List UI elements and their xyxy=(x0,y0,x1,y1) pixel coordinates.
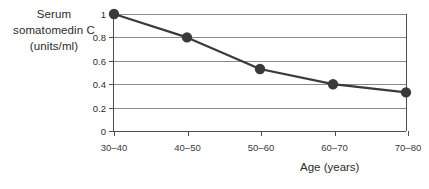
y-axis-tick-label: 1 xyxy=(101,9,106,20)
y-axis-title: Serum somatomedin C (units/ml) xyxy=(2,6,106,54)
data-point-marker xyxy=(255,64,265,74)
x-axis-tick xyxy=(335,131,336,136)
x-axis-tick xyxy=(114,131,115,136)
y-axis-tick-label: 0.8 xyxy=(93,32,106,43)
x-axis-title: Age (years) xyxy=(300,161,359,173)
y-axis-tick-label: 0.2 xyxy=(93,102,106,113)
x-axis-tick-label: 50–60 xyxy=(248,142,274,153)
data-series-line xyxy=(114,14,406,131)
x-axis-tick-label: 70–80 xyxy=(395,142,421,153)
plot-area: 00.20.40.60.81 30–4040–5050–6060–7070–80 xyxy=(113,14,407,131)
y-axis-title-line-1: Serum xyxy=(2,6,106,22)
x-axis-tick-label: 30–40 xyxy=(101,142,127,153)
data-point-marker xyxy=(328,79,338,89)
data-point-marker xyxy=(109,9,119,19)
x-axis-tick-label: 40–50 xyxy=(174,142,200,153)
x-axis-tick xyxy=(408,131,409,136)
x-axis-tick-label: 60–70 xyxy=(321,142,347,153)
data-point-marker xyxy=(182,32,192,42)
x-axis-tick xyxy=(188,131,189,136)
chart-figure: Serum somatomedin C (units/ml) 00.20.40.… xyxy=(0,0,429,189)
y-axis-title-line-3: (units/ml) xyxy=(2,38,106,54)
y-axis-tick-label: 0.6 xyxy=(93,55,106,66)
y-axis-tick-label: 0 xyxy=(101,126,106,137)
x-axis-tick xyxy=(261,131,262,136)
data-point-marker xyxy=(401,87,411,97)
y-axis-title-line-2: somatomedin C xyxy=(2,22,106,38)
y-axis-tick-label: 0.4 xyxy=(93,79,106,90)
gridline xyxy=(114,131,406,132)
series-polyline xyxy=(114,14,406,92)
